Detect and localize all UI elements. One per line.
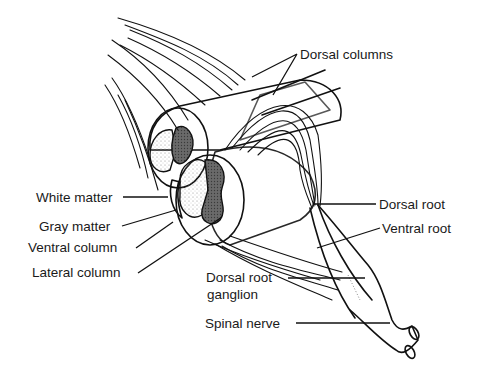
leader-gray-matter xyxy=(122,210,176,226)
leader-ventral-root xyxy=(317,228,380,248)
leader-ventral-column xyxy=(136,222,173,248)
label-gray-matter: Gray matter xyxy=(39,219,110,234)
label-ventral-column: Ventral column xyxy=(28,240,117,255)
label-lateral-column: Lateral column xyxy=(32,265,121,280)
upper-fibers xyxy=(105,18,245,190)
label-ventral-root: Ventral root xyxy=(382,221,451,236)
label-dorsal-root-ganglion-line1: Dorsal root xyxy=(206,270,272,285)
label-white-matter: White matter xyxy=(36,190,113,205)
label-dorsal-root-ganglion-line2: ganglion xyxy=(207,287,258,302)
label-dorsal-root: Dorsal root xyxy=(379,197,445,212)
label-spinal-nerve: Spinal nerve xyxy=(205,316,280,331)
lower-cord-segment xyxy=(170,147,315,245)
label-dorsal-columns: Dorsal columns xyxy=(300,47,393,62)
